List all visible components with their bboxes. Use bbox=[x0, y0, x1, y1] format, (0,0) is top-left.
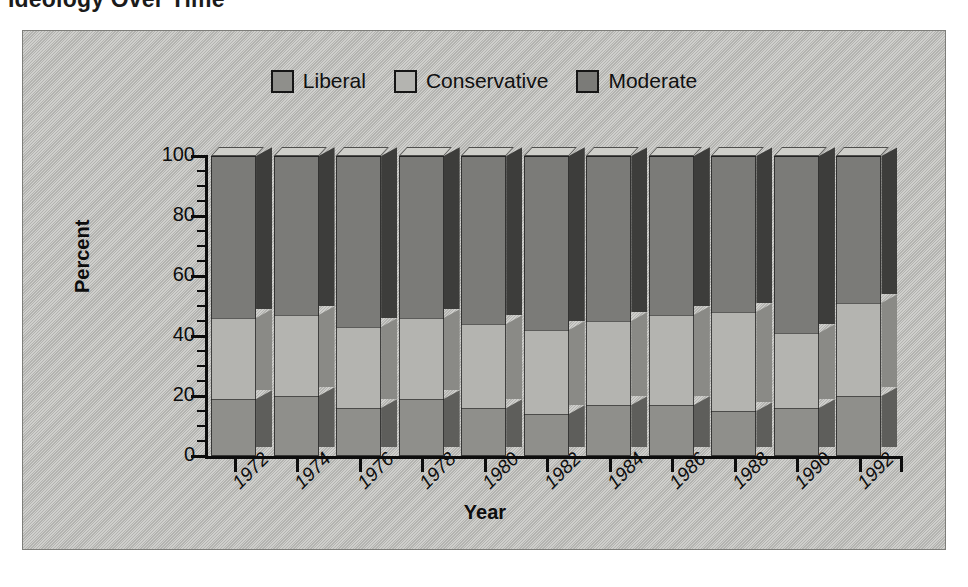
y-axis-minor-tick bbox=[197, 260, 208, 262]
bar-column[interactable] bbox=[336, 156, 381, 456]
bar-segment-moderate[interactable] bbox=[524, 156, 569, 330]
bar-side-segment bbox=[381, 318, 397, 399]
bar-side-segment bbox=[569, 321, 585, 405]
bar-segment-liberal[interactable] bbox=[711, 411, 756, 456]
bar-segment-conservative[interactable] bbox=[399, 318, 444, 399]
bar-segment-conservative[interactable] bbox=[524, 330, 569, 414]
bar-side-face bbox=[444, 156, 460, 456]
bar-side-face bbox=[256, 156, 272, 456]
bar-column[interactable] bbox=[524, 156, 569, 456]
bar-side-segment bbox=[444, 390, 460, 447]
bar-segment-moderate[interactable] bbox=[274, 156, 319, 315]
bar-side-segment bbox=[569, 405, 585, 447]
legend-swatch-icon bbox=[576, 70, 599, 93]
bar-segment-conservative[interactable] bbox=[274, 315, 319, 396]
bar-column[interactable] bbox=[774, 156, 819, 456]
bar-segment-liberal[interactable] bbox=[524, 414, 569, 456]
bar-side-face bbox=[819, 156, 835, 456]
y-axis-minor-tick bbox=[197, 440, 208, 442]
bar-side-segment bbox=[881, 294, 897, 387]
bar-segment-moderate[interactable] bbox=[586, 156, 631, 321]
bar-column[interactable] bbox=[711, 156, 756, 456]
bar-segment-conservative[interactable] bbox=[211, 318, 256, 399]
bar-side-segment bbox=[756, 303, 772, 402]
bar-segment-moderate[interactable] bbox=[211, 156, 256, 318]
page-title: Ideology Over Time bbox=[8, 0, 225, 13]
bar-segment-liberal[interactable] bbox=[836, 396, 881, 456]
bar-segment-moderate[interactable] bbox=[399, 156, 444, 318]
bar-segment-liberal[interactable] bbox=[774, 408, 819, 456]
y-axis-tick-label: 40 bbox=[119, 323, 195, 346]
bar-segment-conservative[interactable] bbox=[836, 303, 881, 396]
bar-column[interactable] bbox=[274, 156, 319, 456]
y-axis-minor-tick bbox=[197, 365, 208, 367]
bar-column[interactable] bbox=[399, 156, 444, 456]
y-axis-minor-tick bbox=[197, 425, 208, 427]
bar-side-segment bbox=[506, 147, 522, 315]
bar-side-face bbox=[694, 156, 710, 456]
bar-side-segment bbox=[569, 147, 585, 321]
x-axis-end-tick bbox=[900, 459, 903, 472]
legend-label: Conservative bbox=[426, 69, 549, 93]
bar-side-segment bbox=[256, 390, 272, 447]
bar-top-cap bbox=[586, 147, 639, 156]
bar-segment-moderate[interactable] bbox=[461, 156, 506, 324]
legend-entry[interactable]: Moderate bbox=[576, 69, 697, 93]
bar-side-segment bbox=[819, 324, 835, 399]
bar-segment-conservative[interactable] bbox=[711, 312, 756, 411]
bar-segment-liberal[interactable] bbox=[274, 396, 319, 456]
bar-column[interactable] bbox=[586, 156, 631, 456]
legend-entry[interactable]: Liberal bbox=[271, 69, 366, 93]
bar-segment-moderate[interactable] bbox=[836, 156, 881, 303]
bar-column[interactable] bbox=[649, 156, 694, 456]
bar-side-segment bbox=[256, 309, 272, 390]
bar-segment-conservative[interactable] bbox=[649, 315, 694, 405]
bar-segment-moderate[interactable] bbox=[774, 156, 819, 333]
bar-side-segment bbox=[881, 387, 897, 447]
bar-front-face bbox=[461, 156, 506, 456]
bar-front-face bbox=[711, 156, 756, 456]
bar-side-segment bbox=[381, 399, 397, 447]
bar-segment-liberal[interactable] bbox=[649, 405, 694, 456]
plot-area: 020406080100 197219741976197819801982198… bbox=[183, 126, 903, 466]
legend-entry[interactable]: Conservative bbox=[394, 69, 549, 93]
bar-segment-liberal[interactable] bbox=[336, 408, 381, 456]
bar-segment-liberal[interactable] bbox=[461, 408, 506, 456]
y-axis-minor-tick bbox=[197, 350, 208, 352]
bar-side-segment bbox=[256, 147, 272, 309]
bar-segment-conservative[interactable] bbox=[586, 321, 631, 405]
bar-column[interactable] bbox=[836, 156, 881, 456]
bar-segment-conservative[interactable] bbox=[774, 333, 819, 408]
bar-side-segment bbox=[631, 147, 647, 312]
bar-segment-liberal[interactable] bbox=[586, 405, 631, 456]
bar-side-segment bbox=[819, 399, 835, 447]
bar-segment-moderate[interactable] bbox=[649, 156, 694, 315]
bar-segment-moderate[interactable] bbox=[711, 156, 756, 312]
bar-segment-liberal[interactable] bbox=[211, 399, 256, 456]
bar-top-cap bbox=[711, 147, 764, 156]
bar-segment-conservative[interactable] bbox=[336, 327, 381, 408]
bar-front-face bbox=[774, 156, 819, 456]
y-axis-minor-tick bbox=[197, 305, 208, 307]
bar-top-cap bbox=[274, 147, 327, 156]
y-axis-tick-label: 60 bbox=[119, 263, 195, 286]
bar-side-segment bbox=[819, 147, 835, 324]
legend-swatch-icon bbox=[271, 70, 294, 93]
bar-segment-moderate[interactable] bbox=[336, 156, 381, 327]
bar-top-cap bbox=[774, 147, 827, 156]
y-axis-minor-tick bbox=[197, 170, 208, 172]
bar-side-face bbox=[881, 156, 897, 456]
chart-legend: LiberalConservativeModerate bbox=[23, 69, 945, 93]
bar-top-cap bbox=[336, 147, 389, 156]
y-axis-minor-tick bbox=[197, 290, 208, 292]
bar-top-cap bbox=[524, 147, 577, 156]
bar-segment-conservative[interactable] bbox=[461, 324, 506, 408]
y-axis-minor-tick bbox=[197, 185, 208, 187]
bar-top-cap bbox=[836, 147, 889, 156]
bar-column[interactable] bbox=[461, 156, 506, 456]
bar-front-face bbox=[649, 156, 694, 456]
bar-column[interactable] bbox=[211, 156, 256, 456]
y-axis-tick-label: 0 bbox=[119, 443, 195, 466]
bar-segment-liberal[interactable] bbox=[399, 399, 444, 456]
bar-side-face bbox=[381, 156, 397, 456]
